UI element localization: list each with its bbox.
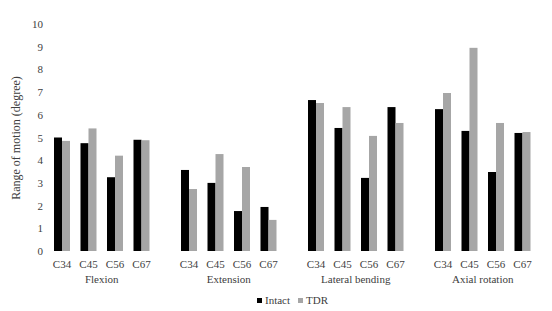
bar-chart: 012345678910 Range of motion (degree) C3… (0, 0, 552, 311)
y-tick-label: 1 (38, 222, 44, 234)
bar-intact-axial-rotation-c34 (435, 109, 443, 251)
bar-tdr-axial-rotation-c67 (523, 132, 531, 251)
bar-intact-flexion-c67 (134, 140, 142, 251)
group-label: Axial rotation (452, 273, 514, 285)
x-tick-label: C67 (513, 258, 532, 270)
bar-intact-axial-rotation-c56 (488, 172, 496, 251)
group-label: Lateral bending (321, 273, 391, 285)
bar-tdr-extension-c56 (242, 167, 250, 251)
bar-intact-axial-rotation-c67 (515, 133, 523, 251)
bar-intact-extension-c34 (181, 170, 189, 251)
bar-intact-lateral-bending-c56 (361, 178, 369, 251)
y-tick-label: 3 (38, 177, 44, 189)
y-axis: 012345678910 (32, 18, 44, 257)
bar-intact-flexion-c45 (81, 143, 89, 251)
bar-tdr-flexion-c34 (62, 141, 70, 251)
bar-intact-extension-c67 (261, 207, 269, 251)
bar-tdr-axial-rotation-c45 (470, 48, 478, 251)
x-tick-label: C56 (360, 258, 379, 270)
bar-intact-extension-c45 (208, 183, 216, 251)
x-tick-label: C56 (487, 258, 506, 270)
group-label: Extension (207, 273, 251, 285)
x-tick-label: C45 (79, 258, 98, 270)
x-tick-label: C67 (132, 258, 151, 270)
y-tick-label: 5 (38, 132, 44, 144)
y-tick-label: 6 (38, 109, 44, 121)
legend-label-tdr: TDR (306, 294, 329, 306)
x-axis-labels: C34C45C56C67FlexionC34C45C56C67Extension… (53, 258, 532, 285)
bar-tdr-lateral-bending-c56 (369, 136, 377, 251)
x-tick-label: C56 (233, 258, 252, 270)
bar-tdr-flexion-c45 (89, 128, 97, 251)
y-axis-label: Range of motion (degree) (9, 76, 23, 200)
bar-intact-lateral-bending-c34 (308, 100, 316, 251)
legend-swatch-tdr (298, 298, 303, 303)
x-tick-label: C34 (307, 258, 326, 270)
bar-tdr-extension-c67 (269, 220, 277, 251)
bar-intact-lateral-bending-c45 (335, 128, 343, 251)
x-tick-label: C67 (386, 258, 405, 270)
bars (54, 48, 531, 251)
y-tick-label: 10 (32, 18, 44, 30)
bar-intact-extension-c56 (234, 211, 242, 251)
x-tick-label: C45 (460, 258, 479, 270)
bar-intact-lateral-bending-c67 (388, 107, 396, 251)
bar-intact-flexion-c56 (107, 177, 115, 251)
x-tick-label: C34 (434, 258, 453, 270)
bar-tdr-extension-c45 (216, 154, 224, 251)
bar-tdr-lateral-bending-c67 (396, 123, 404, 251)
bar-intact-axial-rotation-c45 (462, 131, 470, 251)
legend: IntactTDR (257, 294, 329, 306)
x-tick-label: C45 (333, 258, 352, 270)
bar-tdr-lateral-bending-c45 (343, 107, 351, 251)
x-tick-label: C45 (206, 258, 225, 270)
y-tick-label: 0 (38, 245, 44, 257)
legend-swatch-intact (257, 298, 262, 303)
x-tick-label: C56 (106, 258, 125, 270)
y-tick-label: 7 (38, 86, 44, 98)
bar-intact-flexion-c34 (54, 138, 62, 252)
bar-tdr-lateral-bending-c34 (316, 103, 324, 251)
chart-canvas: 012345678910 Range of motion (degree) C3… (0, 0, 552, 311)
legend-label-intact: Intact (265, 294, 290, 306)
y-tick-label: 4 (38, 154, 44, 166)
y-tick-label: 8 (38, 63, 44, 75)
bar-tdr-flexion-c56 (115, 156, 123, 251)
group-label: Flexion (85, 273, 119, 285)
y-tick-label: 9 (38, 41, 44, 53)
x-tick-label: C67 (259, 258, 278, 270)
x-tick-label: C34 (53, 258, 72, 270)
x-tick-label: C34 (180, 258, 199, 270)
bar-tdr-flexion-c67 (142, 140, 150, 251)
bar-tdr-axial-rotation-c56 (496, 123, 504, 251)
bar-tdr-extension-c34 (189, 189, 197, 251)
y-tick-label: 2 (38, 200, 44, 212)
bar-tdr-axial-rotation-c34 (443, 93, 451, 251)
